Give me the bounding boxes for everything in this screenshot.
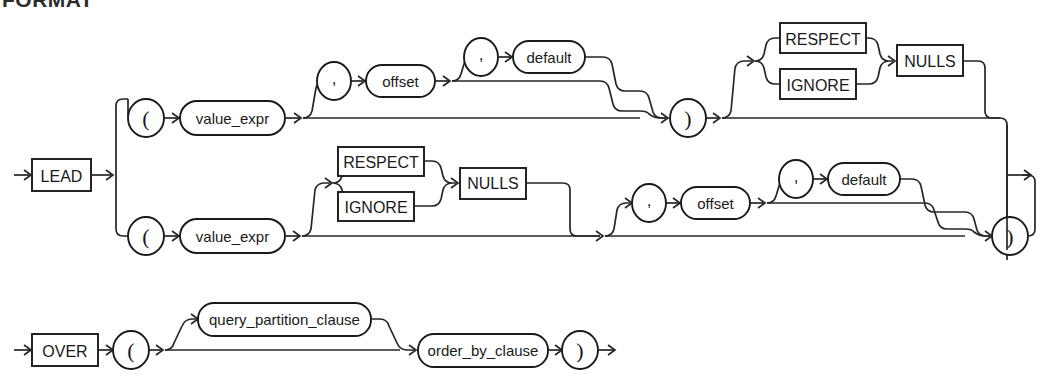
upper-respect-node: RESPECT: [780, 23, 866, 53]
upper-offset-label: offset: [382, 73, 419, 90]
over-row-exit-arrow: [598, 345, 615, 355]
lower-close-paren-node: ): [992, 217, 1028, 255]
branch-split-stem: [116, 99, 128, 175]
upper-nulls-label: NULLS: [904, 53, 956, 70]
lower-ignore-label: IGNORE: [344, 199, 407, 216]
upper-offset-node: offset: [366, 65, 435, 97]
over-keyword-label: OVER: [42, 343, 87, 360]
lead-keyword-label: LEAD: [41, 168, 83, 185]
lower-comma-2-node: ,: [779, 160, 813, 198]
lower-comma-1-label: ,: [647, 191, 652, 210]
upper-comma-2-label: ,: [479, 45, 484, 64]
lower-climb-to-ri: [302, 183, 330, 236]
upper-ri-left-fork: [755, 38, 779, 84]
lead-railroad-svg: LEAD ( value_expr: [0, 0, 1046, 384]
over-order-by-clause-label: order_by_clause: [428, 342, 539, 359]
upper-default-bypass: [452, 81, 640, 111]
lead-keyword-node: LEAD: [32, 159, 91, 191]
entry-arrow-over: [14, 345, 31, 355]
upper-default-exit: [585, 57, 640, 91]
lower-open-paren-label: (: [142, 224, 149, 249]
lower-comma-2-label: ,: [794, 167, 799, 186]
lower-nulls-label: NULLS: [467, 175, 519, 192]
lead-row-exit-arrow: [1007, 170, 1031, 180]
over-close-paren-node: ): [562, 331, 598, 369]
lead-to-split: [91, 170, 113, 180]
over-query-partition-clause-node: query_partition_clause: [198, 303, 371, 336]
upper-comma-1-node: ,: [317, 62, 351, 100]
entry-arrow-lead: [14, 170, 31, 180]
over-close-paren-label: ): [576, 338, 583, 363]
lower-respect-node: RESPECT: [338, 147, 424, 176]
upper-open-paren-node: (: [128, 99, 164, 137]
lower-value-expr-node: value_expr: [180, 219, 285, 253]
upper-close-paren-node: ): [670, 99, 706, 137]
upper-ignore-node: IGNORE: [780, 69, 856, 99]
lower-comma-1-node: ,: [632, 184, 666, 222]
lower-offset-node: offset: [681, 187, 750, 219]
lower-nulls-exit: [526, 183, 600, 236]
lower-default-node: default: [828, 163, 900, 195]
upper-open-paren-label: (: [142, 106, 149, 131]
over-open-paren-label: (: [127, 338, 134, 363]
syntax-diagram-canvas: FORMAT LEAD (: [0, 0, 1046, 384]
upper-default-label: default: [526, 49, 572, 66]
over-open-paren-node: (: [113, 331, 149, 369]
lower-ignore-node: IGNORE: [338, 192, 414, 221]
lower-open-paren-node: (: [128, 217, 164, 255]
over-keyword-node: OVER: [32, 334, 98, 366]
lower-default-label: default: [841, 171, 887, 188]
lower-offset-label: offset: [697, 195, 734, 212]
upper-nulls-node: NULLS: [897, 45, 963, 76]
upper-climb-to-nulls-group: [722, 61, 752, 118]
branch-split-stem-down: [116, 175, 128, 236]
lower-nulls-node: NULLS: [460, 168, 526, 199]
lower-respect-label: RESPECT: [343, 154, 419, 171]
upper-close-paren-label: ): [684, 106, 691, 131]
over-query-partition-clause-label: query_partition_clause: [209, 311, 360, 328]
upper-comma-1-label: ,: [332, 69, 337, 88]
lower-default-bypass: [767, 203, 965, 229]
lower-value-expr-label: value_expr: [196, 228, 269, 245]
upper-default-node: default: [513, 41, 585, 73]
upper-comma-2-node: ,: [464, 38, 498, 76]
upper-ignore-label: IGNORE: [786, 77, 849, 94]
upper-respect-label: RESPECT: [785, 31, 861, 48]
page-heading-clipped: FORMAT: [0, 0, 180, 13]
page-heading-text: FORMAT: [2, 0, 93, 12]
upper-value-expr-node: value_expr: [180, 101, 285, 135]
upper-value-expr-label: value_expr: [196, 110, 269, 127]
over-qpc-exit: [371, 319, 414, 350]
over-order-by-clause-node: order_by_clause: [418, 334, 548, 367]
upper-nulls-exit: [963, 61, 1000, 118]
